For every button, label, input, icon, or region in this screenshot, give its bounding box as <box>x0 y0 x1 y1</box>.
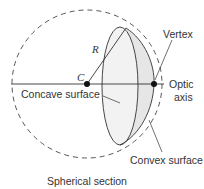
section-rim <box>102 27 138 145</box>
optic-axis-label-2: axis <box>174 91 193 103</box>
center-label: C <box>77 71 85 83</box>
spherical-section-diagram: R C Vertex Optic axis Concave surface Co… <box>0 0 204 189</box>
convex-leader <box>149 120 162 152</box>
center-point <box>84 81 90 87</box>
vertex-point <box>151 81 157 87</box>
convex-label: Convex surface <box>130 154 203 166</box>
concave-label: Concave surface <box>21 88 100 100</box>
caption: Spherical section <box>47 175 127 187</box>
optic-axis-label-1: Optic <box>169 78 194 90</box>
radius-label: R <box>91 43 99 55</box>
vertex-label: Vertex <box>163 28 194 40</box>
